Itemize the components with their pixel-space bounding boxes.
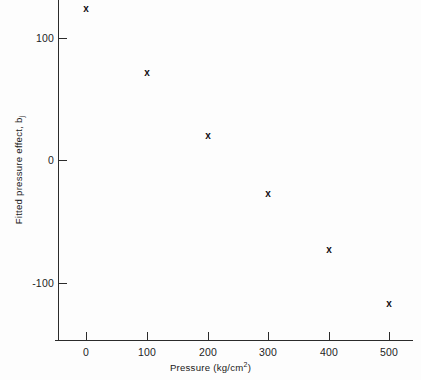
y-axis-label: Fitted pressure effect, bj (13, 116, 24, 225)
y-tick-neg100 (59, 283, 67, 284)
x-tick-500 (389, 332, 390, 340)
x-ticklabel-400: 400 (309, 346, 349, 358)
x-ticklabel-0: 0 (66, 346, 106, 358)
data-point: x (263, 188, 274, 199)
x-ticklabel-300: 300 (248, 346, 288, 358)
x-ticklabel-500: 500 (369, 346, 409, 358)
scatter-chart-figure: 100 0 -100 0 100 200 300 400 500 x x x x… (0, 0, 421, 380)
y-axis-label-base: Fitted pressure effect, b (13, 117, 24, 224)
x-tick-400 (329, 332, 330, 340)
y-axis-label-subscript: j (18, 116, 25, 118)
x-tick-0 (86, 332, 87, 340)
x-ticklabel-200: 200 (188, 346, 228, 358)
x-tick-200 (208, 332, 209, 340)
x-ticklabel-100: 100 (127, 346, 167, 358)
x-axis-label-tail: ) (248, 362, 251, 373)
data-point: x (142, 67, 153, 78)
data-point: x (81, 3, 92, 14)
x-axis-line (55, 340, 413, 341)
x-axis-label-base: Pressure (kg/cm (170, 362, 244, 373)
data-point: x (203, 130, 214, 141)
data-point: x (324, 244, 335, 255)
x-tick-300 (268, 332, 269, 340)
x-tick-100 (147, 332, 148, 340)
y-tick-0 (59, 160, 67, 161)
x-axis-label: Pressure (kg/cm2) (0, 362, 421, 373)
y-axis-line (58, 0, 59, 340)
y-axis-label-holder: Fitted pressure effect, bj (10, 0, 26, 340)
data-point: x (384, 298, 395, 309)
y-tick-100 (59, 38, 67, 39)
